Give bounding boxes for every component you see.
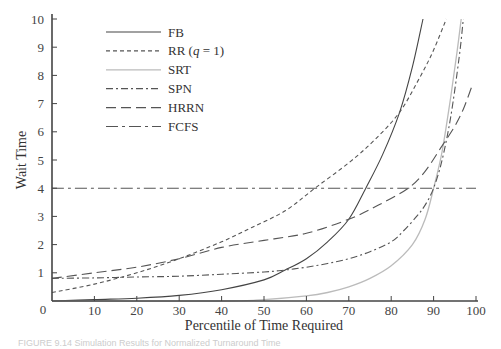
x-tick-label: 80 bbox=[385, 303, 398, 318]
x-tick-label: 10 bbox=[88, 303, 101, 318]
x-tick-label: 30 bbox=[173, 303, 186, 318]
legend-item: SRT bbox=[106, 62, 191, 77]
legend-label: RR (q = 1) bbox=[168, 43, 224, 58]
x-tick-label: 40 bbox=[215, 303, 228, 318]
legend-item: SPN bbox=[106, 81, 192, 96]
y-axis-title: Wait Time bbox=[14, 131, 29, 189]
x-tick-label: 70 bbox=[342, 303, 355, 318]
legend-label: SRT bbox=[168, 62, 191, 77]
legend-label: FCFS bbox=[168, 119, 198, 134]
y-tick-label: 2 bbox=[38, 237, 45, 252]
origin-label: 0 bbox=[40, 302, 47, 317]
series-spn-line bbox=[52, 19, 463, 278]
legend-item: HRRN bbox=[106, 100, 205, 115]
x-tick-label: 50 bbox=[258, 303, 271, 318]
figure-caption: FIGURE 9.14 Simulation Results for Norma… bbox=[18, 338, 281, 348]
y-tick-label: 4 bbox=[38, 181, 45, 196]
y-tick-label: 5 bbox=[38, 153, 45, 168]
legend-label: HRRN bbox=[168, 100, 205, 115]
y-tick-label: 7 bbox=[38, 96, 45, 111]
y-tick-label: 6 bbox=[38, 124, 45, 139]
wait-time-chart: 12345678910 102030405060708090100 0 Perc… bbox=[0, 0, 501, 349]
plot-curves bbox=[52, 19, 476, 301]
series-fb-line bbox=[52, 19, 423, 301]
legend-item: RR (q = 1) bbox=[106, 43, 224, 58]
y-axis-ticks: 12345678910 bbox=[31, 12, 57, 281]
x-axis-title: Percentile of Time Required bbox=[185, 318, 343, 333]
x-tick-label: 100 bbox=[466, 303, 486, 318]
legend-label: FB bbox=[168, 25, 184, 40]
series-rr-line bbox=[52, 19, 446, 293]
y-tick-label: 1 bbox=[38, 265, 45, 280]
legend-label: SPN bbox=[168, 81, 192, 96]
series-srt-line bbox=[52, 19, 461, 301]
y-tick-label: 8 bbox=[38, 68, 45, 83]
legend: FBRR (q = 1)SRTSPNHRRNFCFS bbox=[106, 25, 224, 135]
y-tick-label: 3 bbox=[38, 209, 45, 224]
x-tick-label: 60 bbox=[300, 303, 313, 318]
legend-item: FCFS bbox=[106, 119, 198, 134]
x-axis-ticks: 102030405060708090100 bbox=[88, 296, 486, 318]
y-tick-label: 10 bbox=[31, 12, 44, 27]
y-tick-label: 9 bbox=[38, 40, 45, 55]
x-tick-label: 90 bbox=[427, 303, 440, 318]
x-tick-label: 20 bbox=[130, 303, 143, 318]
legend-item: FB bbox=[106, 25, 184, 40]
